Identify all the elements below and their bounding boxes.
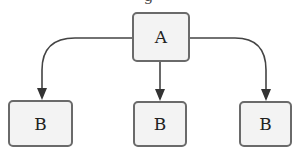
node-b-middle-label: B: [154, 114, 167, 134]
arrowhead-middle-icon: [155, 89, 165, 101]
arrowhead-right-icon: [261, 89, 271, 101]
node-a: A: [132, 12, 190, 62]
node-b-middle: B: [133, 101, 187, 147]
arrowhead-left-icon: [37, 88, 47, 100]
node-b-left-label: B: [34, 114, 47, 134]
edge-a-to-left-b: [42, 38, 132, 97]
node-b-left: B: [8, 100, 73, 147]
node-b-right: B: [239, 101, 292, 147]
node-b-right-label: B: [259, 114, 272, 134]
edge-a-to-right-b: [190, 38, 266, 99]
node-a-label: A: [155, 27, 167, 47]
